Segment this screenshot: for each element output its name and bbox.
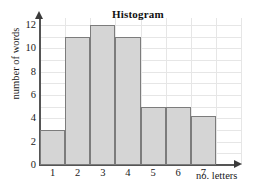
histogram-bar: [141, 107, 166, 165]
y-tick-label: 12: [18, 20, 36, 31]
y-tick-label: 6: [18, 90, 36, 101]
y-tick-label: 10: [18, 43, 36, 54]
x-tick-label: 3: [90, 168, 116, 179]
histogram-bar: [166, 107, 191, 165]
gridline-vertical: [241, 18, 242, 165]
histogram-figure: 024681012 1234567 Histogram number of wo…: [0, 0, 261, 192]
histogram-bar: [65, 37, 90, 165]
y-tick-label: 0: [18, 160, 36, 171]
histogram-bar: [191, 116, 216, 165]
x-axis-label: no. letters: [196, 170, 237, 181]
x-tick-label: 1: [40, 168, 66, 179]
histogram-bars: [40, 18, 241, 165]
histogram-bar: [90, 25, 115, 165]
y-tick-label: 8: [18, 67, 36, 78]
y-tick-label: 2: [18, 137, 36, 148]
y-axis-label: number of words: [10, 21, 21, 107]
x-tick-label: 5: [140, 168, 166, 179]
x-tick-label: 4: [115, 168, 141, 179]
x-tick-label: 2: [65, 168, 91, 179]
histogram-bar: [40, 130, 65, 165]
histogram-bar: [115, 37, 140, 165]
chart-title: Histogram: [112, 8, 164, 20]
y-tick-label: 4: [18, 113, 36, 124]
x-tick-label: 6: [165, 168, 191, 179]
